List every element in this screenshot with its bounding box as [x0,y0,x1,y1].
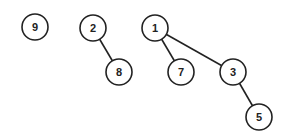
node-label: 8 [116,66,122,78]
node-2: 2 [80,15,106,41]
node-label: 7 [178,66,184,78]
node-3: 3 [220,59,246,85]
node-label: 9 [32,21,38,33]
node-1: 1 [142,15,168,41]
node-9: 9 [22,14,48,40]
tree-diagram: 9 2 8 1 7 3 5 [0,0,283,135]
node-7: 7 [168,59,194,85]
node-label: 1 [152,22,158,34]
node-label: 5 [256,111,262,123]
node-5: 5 [246,104,272,130]
nodes: 9 2 8 1 7 3 5 [22,14,272,130]
node-label: 2 [90,22,96,34]
node-8: 8 [106,59,132,85]
node-label: 3 [230,66,236,78]
